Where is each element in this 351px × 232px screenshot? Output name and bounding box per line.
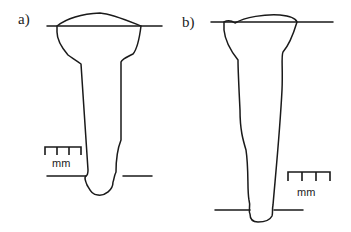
weld-cross-section-figure: a) mm b) mm [0, 0, 351, 232]
panel-b-scale-bar: mm [288, 172, 330, 198]
panel-a: a) mm [18, 11, 162, 195]
panel-a-scale-bar: mm [45, 147, 81, 169]
panel-a-scale-unit: mm [52, 157, 70, 169]
panel-b-scale-unit: mm [297, 186, 315, 198]
panel-b-weld-profile [224, 15, 297, 222]
panel-b: b) mm [182, 14, 333, 222]
panel-b-label: b) [182, 14, 195, 31]
panel-a-label: a) [18, 11, 30, 28]
